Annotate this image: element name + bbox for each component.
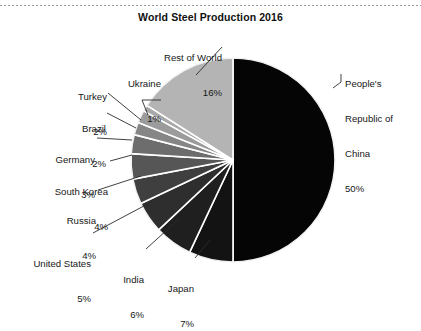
- pie-slice-people-s-republic-of-china: [233, 58, 335, 262]
- slice-label-india: India 6%: [85, 251, 144, 331]
- slice-label-united-states: United States 5%: [5, 235, 91, 328]
- slice-label-japan: Japan 7%: [140, 260, 194, 331]
- leader-line-south-korea: [110, 155, 132, 161]
- leader-line-china: [333, 82, 341, 88]
- slice-label-china: People's Republic of China 50%: [345, 55, 393, 217]
